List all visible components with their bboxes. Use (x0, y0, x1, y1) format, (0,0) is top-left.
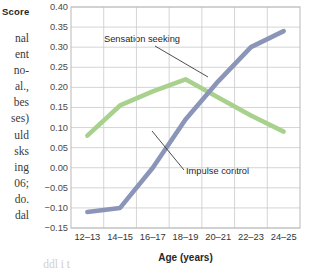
data-series-layer (87, 31, 283, 212)
data-series-line (87, 31, 283, 212)
annotation-leader-lines (152, 46, 208, 170)
annotation-leader-line (155, 46, 208, 77)
chart-plot-area (0, 0, 314, 271)
